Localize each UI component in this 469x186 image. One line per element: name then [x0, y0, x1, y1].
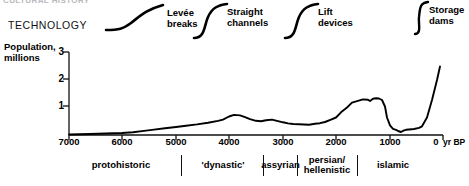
x-axis-unit-label: yr BP — [443, 137, 465, 147]
s-curve-steep-icon — [283, 0, 323, 40]
population-data-curve — [69, 67, 440, 135]
period-islamic: islamic — [360, 152, 426, 178]
population-chart-plot — [0, 44, 469, 144]
cultural-period-bar: protohistoric 'dynastic' assyrian persia… — [0, 152, 469, 182]
technology-label: Storage dams — [429, 5, 464, 26]
x-tick-label-6000: 6000 — [105, 136, 139, 147]
technology-label-line1: Levée — [167, 7, 194, 18]
technology-item-lift-devices: Lift devices — [283, 0, 393, 46]
technology-label-line1: Lift — [318, 6, 333, 17]
technology-label-line1: Storage — [429, 4, 464, 15]
period-divider — [297, 155, 298, 176]
period-assyrian: assyrian — [265, 152, 296, 178]
technology-item-storage-dams: Storage dams — [412, 0, 469, 46]
period-persian-hellenistic: persian/ hellenistic — [299, 152, 355, 178]
period-label-line2: hellenistic — [304, 164, 350, 175]
technology-label-line1: Straight — [227, 6, 263, 17]
technology-label-line2: devices — [318, 17, 353, 28]
s-curve-gentle-icon — [105, 0, 167, 34]
population-curve-svg — [0, 44, 469, 144]
technology-label-line2: dams — [429, 15, 454, 26]
period-protohistoric: protohistoric — [62, 152, 180, 178]
x-tick-label-3000: 3000 — [266, 136, 300, 147]
s-curve-steep-icon — [192, 0, 232, 40]
figure-population-vs-time: CULTURAL HISTORY TECHNOLOGY Levée breaks… — [0, 0, 469, 186]
x-tick-label-7000: 7000 — [52, 136, 86, 147]
x-tick-label-4000: 4000 — [212, 136, 246, 147]
technology-label: Straight channels — [227, 7, 268, 28]
period-divider — [357, 155, 358, 176]
x-tick-label-2000: 2000 — [319, 136, 353, 147]
period-dynastic: 'dynastic' — [184, 152, 262, 178]
x-tick-label-5000: 5000 — [159, 136, 193, 147]
technology-label-line2: channels — [227, 17, 268, 28]
technology-label: Lift devices — [318, 7, 353, 28]
x-tick-label-0: 0 — [429, 136, 443, 147]
period-label-line1: persian/ — [309, 154, 345, 165]
technology-section-label: TECHNOLOGY — [8, 19, 87, 31]
period-divider — [181, 155, 182, 176]
x-tick-label-1000: 1000 — [373, 136, 407, 147]
